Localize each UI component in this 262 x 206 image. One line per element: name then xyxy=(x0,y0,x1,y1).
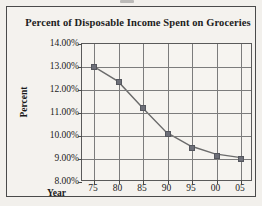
plot-area xyxy=(81,43,252,181)
gridline-horizontal xyxy=(82,90,251,91)
x-axis-tick-labels: 75808590950005 xyxy=(81,183,252,199)
y-tick-mark xyxy=(78,159,82,160)
y-tick-mark xyxy=(78,136,82,137)
y-tick-label: 12.00% xyxy=(31,84,79,94)
x-axis-label: Year xyxy=(47,188,66,198)
data-point-marker xyxy=(165,131,171,137)
data-point-marker xyxy=(238,156,244,162)
y-tick-mark xyxy=(78,113,82,114)
y-tick-label: 11.00% xyxy=(31,107,79,117)
x-tick-label: 75 xyxy=(80,183,106,193)
y-tick-mark xyxy=(78,67,82,68)
data-point-marker xyxy=(140,105,146,111)
data-point-marker xyxy=(189,145,195,151)
x-tick-label: 90 xyxy=(154,183,180,193)
y-tick-label: 13.00% xyxy=(31,61,79,71)
y-tick-mark xyxy=(78,90,82,91)
x-tick-label: 80 xyxy=(105,183,131,193)
x-tick-label: 05 xyxy=(227,183,253,193)
gridline-vertical xyxy=(192,44,193,180)
gridline-horizontal xyxy=(82,159,251,160)
y-tick-mark xyxy=(78,44,82,45)
data-point-marker xyxy=(116,79,122,85)
gridline-horizontal xyxy=(82,67,251,68)
gridline-vertical xyxy=(217,44,218,180)
y-tick-label: 14.00% xyxy=(31,38,79,48)
gridline-vertical xyxy=(143,44,144,180)
x-tick-label: 85 xyxy=(129,183,155,193)
chart-title: Percent of Disposable Income Spent on Gr… xyxy=(21,17,255,30)
gridline-vertical xyxy=(168,44,169,180)
y-tick-label: 10.00% xyxy=(31,130,79,140)
chart-frame: Percent of Disposable Income Spent on Gr… xyxy=(6,6,256,197)
gridline-vertical xyxy=(119,44,120,180)
data-point-marker xyxy=(91,64,97,70)
y-tick-label: 8.00% xyxy=(31,176,79,186)
x-tick-label: 95 xyxy=(178,183,204,193)
scan-artifact xyxy=(120,0,134,3)
gridline-horizontal xyxy=(82,113,251,114)
y-tick-label: 9.00% xyxy=(31,153,79,163)
chart-screenshot: Percent of Disposable Income Spent on Gr… xyxy=(0,0,262,206)
x-tick-label: 00 xyxy=(203,183,229,193)
data-point-marker xyxy=(214,153,220,159)
y-axis-tick-labels: 14.00%13.00%12.00%11.00%10.00%9.00%8.00% xyxy=(27,43,79,181)
